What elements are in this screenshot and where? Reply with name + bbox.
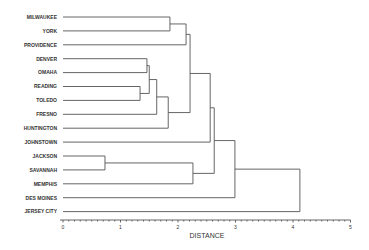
tick-label: 3: [234, 224, 237, 230]
leaf-label: JOHNSTOWN: [25, 139, 58, 145]
leaf-label: SAVANNAH: [29, 167, 57, 173]
tick-label: 0: [62, 224, 65, 230]
tick-label: 4: [292, 224, 295, 230]
dendrogram-chart: MILWAUKEEYORKPROVIDENCEDENVEROMAHAREADIN…: [0, 0, 369, 250]
leaf-label: OMAHA: [38, 69, 57, 75]
leaf-labels: MILWAUKEEYORKPROVIDENCEDENVEROMAHAREADIN…: [24, 14, 58, 215]
leaf-label: READING: [34, 83, 57, 89]
leaf-label: MILWAUKEE: [27, 14, 58, 20]
leaf-label: JERSEY CITY: [25, 208, 58, 214]
leaf-label: FRESNO: [36, 111, 57, 117]
dendrogram-branches: [63, 17, 300, 212]
leaf-label: MEMPHIS: [34, 181, 58, 187]
tick-label: 1: [119, 224, 122, 230]
leaf-label: HUNTINGTON: [24, 125, 58, 131]
leaf-label: DENVER: [36, 56, 57, 62]
leaf-label: TOLEDO: [36, 97, 57, 103]
leaf-label: PROVIDENCE: [24, 42, 58, 48]
x-axis-title: DISTANCE: [190, 232, 225, 239]
tick-label: 5: [349, 224, 352, 230]
tick-label: 2: [177, 224, 180, 230]
leaf-label: YORK: [43, 28, 58, 34]
leaf-label: DES MOINES: [26, 195, 58, 201]
leaf-label: JACKSON: [33, 153, 58, 159]
x-axis: 012345: [60, 220, 352, 230]
